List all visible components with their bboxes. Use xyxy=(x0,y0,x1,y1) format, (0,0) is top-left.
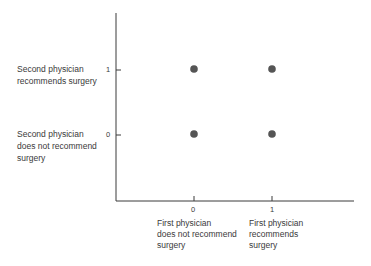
label-line: Second physician xyxy=(17,63,97,75)
x-tick-label-1: 1 xyxy=(270,205,274,214)
label-line: does not recommend xyxy=(17,140,97,152)
label-line: First physician xyxy=(249,218,303,229)
x-category-label-not-recommend: First physician does not recommend surge… xyxy=(157,218,237,251)
label-line: recommends surgery xyxy=(17,75,97,87)
label-line: Second physician xyxy=(17,128,97,140)
x-category-label-recommends: First physician recommends surgery xyxy=(249,218,303,251)
y-tick-label-0: 0 xyxy=(106,130,110,139)
label-line: surgery xyxy=(17,152,97,164)
label-line: surgery xyxy=(249,240,303,251)
label-line: recommends xyxy=(249,229,303,240)
label-line: surgery xyxy=(157,240,237,251)
label-line: does not recommend xyxy=(157,229,237,240)
data-point xyxy=(190,65,198,73)
data-point xyxy=(268,65,276,73)
x-tick-label-0: 0 xyxy=(191,205,195,214)
data-point xyxy=(190,130,198,138)
label-line: First physician xyxy=(157,218,237,229)
y-category-label-recommends: Second physician recommends surgery xyxy=(17,63,97,87)
y-category-label-not-recommend: Second physician does not recommend surg… xyxy=(17,128,97,164)
data-point xyxy=(268,130,276,138)
y-tick-label-1: 1 xyxy=(106,65,110,74)
